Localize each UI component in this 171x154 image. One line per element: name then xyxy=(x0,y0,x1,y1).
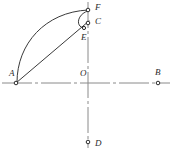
point-label-B: B xyxy=(155,67,161,77)
point-label-D: D xyxy=(94,138,102,148)
point-marker-C xyxy=(86,21,90,25)
geometric-diagram: A B O C D E F xyxy=(0,0,171,154)
point-marker-A xyxy=(14,81,18,85)
point-label-A: A xyxy=(8,68,15,78)
point-marker-D xyxy=(86,140,90,144)
point-marker-B xyxy=(156,81,160,85)
diagram-canvas: A B O C D E F xyxy=(0,0,171,154)
point-marker-E xyxy=(82,26,85,29)
segment-A-C xyxy=(16,21,89,83)
point-label-C: C xyxy=(95,16,102,26)
point-label-E: E xyxy=(80,32,87,42)
major-arc-A-F xyxy=(17,10,88,82)
point-label-F: F xyxy=(94,2,101,12)
point-marker-F xyxy=(86,8,90,12)
point-label-O: O xyxy=(80,68,87,78)
